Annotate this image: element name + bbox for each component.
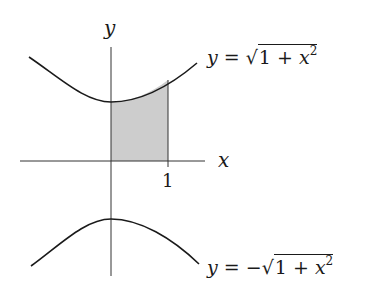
radicand: 1 + x2	[274, 254, 333, 278]
eq-lhs: y =	[207, 256, 240, 278]
lower-curve-equation: y = −√1 + x2	[207, 256, 333, 278]
radicand: 1 + x2	[258, 44, 317, 68]
sqrt-symbol: √	[246, 46, 258, 68]
lower-hyperbola-curve	[31, 219, 199, 266]
y-axis-label: y	[104, 16, 115, 40]
x-axis-label: x	[218, 148, 229, 172]
eq-lhs: y =	[207, 46, 240, 68]
tick-label-one: 1	[162, 170, 173, 191]
sqrt-symbol: √	[262, 256, 274, 278]
upper-curve-equation: y = √1 + x2	[207, 46, 317, 68]
shaded-region	[111, 80, 168, 161]
upper-hyperbola-curve	[29, 57, 197, 102]
eq-sign: −	[246, 256, 262, 278]
